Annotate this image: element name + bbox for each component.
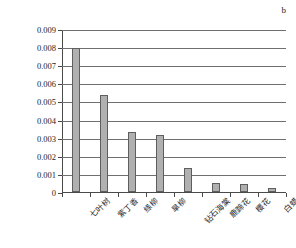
gridline xyxy=(62,157,286,158)
x-tick-mark xyxy=(118,193,119,197)
gridline xyxy=(62,48,286,49)
gridline xyxy=(62,66,286,67)
bar xyxy=(128,132,136,192)
x-tick-mark xyxy=(146,193,147,197)
y-tick-label: 0.003 xyxy=(37,134,56,143)
y-tick-label: 0.004 xyxy=(37,116,56,125)
x-axis-label: 紫丁香 xyxy=(117,197,140,220)
y-tick-label: 0.007 xyxy=(37,62,56,71)
gridline xyxy=(62,139,286,140)
bar xyxy=(72,48,80,192)
bar xyxy=(100,95,108,192)
x-tick-mark xyxy=(258,193,259,197)
bar xyxy=(268,188,276,192)
y-tick-label: 0.006 xyxy=(37,80,56,89)
x-axis-label: 旱柳 xyxy=(171,197,188,214)
y-tick-mark xyxy=(58,30,62,31)
y-tick-mark xyxy=(58,121,62,122)
y-tick-mark xyxy=(58,157,62,158)
y-tick-label: 0.005 xyxy=(37,98,56,107)
x-tick-mark xyxy=(202,193,203,197)
y-tick-mark xyxy=(58,175,62,176)
bar xyxy=(156,135,164,192)
x-tick-mark xyxy=(174,193,175,197)
bar xyxy=(212,183,220,192)
y-tick-label: 0.001 xyxy=(37,171,56,180)
gridline xyxy=(62,102,286,103)
x-axis-label: 鹿蹄花 xyxy=(229,197,252,220)
x-tick-mark xyxy=(286,193,287,197)
y-tick-mark xyxy=(58,84,62,85)
x-tick-mark xyxy=(230,193,231,197)
gridline xyxy=(62,30,286,31)
panel-label: b xyxy=(282,6,287,15)
gridline xyxy=(62,84,286,85)
x-axis-label: 樱花 xyxy=(255,197,272,214)
gridline xyxy=(62,175,286,176)
chart-figure: b SOA2.5[g/（m2·周）] 00.0010.0020.0030.004… xyxy=(0,0,296,248)
x-tick-mark xyxy=(62,193,63,197)
plot-area: 00.0010.0020.0030.0040.0050.0060.0070.00… xyxy=(62,30,286,193)
x-axis-label: 白蜡 xyxy=(283,197,296,214)
y-tick-label: 0.008 xyxy=(37,44,56,53)
y-tick-label: 0.002 xyxy=(37,153,56,162)
x-tick-mark xyxy=(90,193,91,197)
bar xyxy=(240,184,248,192)
y-tick-mark xyxy=(58,48,62,49)
y-tick-mark xyxy=(58,102,62,103)
y-tick-label: 0 xyxy=(52,189,56,198)
y-tick-mark xyxy=(58,139,62,140)
y-tick-mark xyxy=(58,66,62,67)
plot-frame xyxy=(62,30,286,193)
x-axis-label: 钻石海棠 xyxy=(203,197,231,225)
gridline xyxy=(62,121,286,122)
x-axis-label: 绦柳 xyxy=(143,197,160,214)
x-axis-label: 七叶树 xyxy=(89,197,112,220)
y-axis-line xyxy=(62,30,63,193)
bar xyxy=(184,168,192,192)
y-tick-label: 0.009 xyxy=(37,26,56,35)
